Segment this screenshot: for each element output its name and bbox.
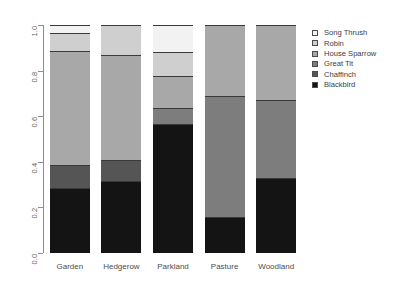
x-axis-label-hedgerow: Hedgerow	[103, 262, 139, 271]
bar-segment-great-tit	[153, 108, 193, 124]
y-axis-tick	[38, 116, 43, 117]
bar-segment-chaffinch	[50, 165, 90, 188]
y-axis-tick	[38, 162, 43, 163]
bar-segment-robin	[101, 25, 141, 55]
bar-segment-blackbird	[101, 181, 141, 253]
legend-label: Robin	[324, 40, 344, 48]
legend-item-robin[interactable]: Robin	[312, 38, 376, 48]
bar-segment-robin	[153, 52, 193, 76]
y-axis-tick	[38, 207, 43, 208]
y-axis-tick-label: 0.0	[30, 254, 39, 265]
legend-label: Song Thrush	[324, 29, 367, 37]
bar-segment-house-sparrow	[205, 25, 245, 96]
bar-woodland	[256, 25, 296, 253]
y-axis-tick-label: 0.6	[30, 117, 39, 128]
bar-hedgerow	[101, 25, 141, 253]
legend-item-house-sparrow[interactable]: House Sparrow	[312, 49, 376, 59]
y-axis-tick	[38, 253, 43, 254]
bar-parkland	[153, 25, 193, 253]
bar-segment-song-thrush	[50, 25, 90, 33]
bar-segment-blackbird	[153, 124, 193, 253]
plot-area	[44, 25, 302, 253]
y-axis-tick-label: 0.8	[30, 71, 39, 82]
legend-swatch-icon	[312, 30, 318, 36]
bar-segment-blackbird	[256, 178, 296, 253]
bar-garden	[50, 25, 90, 253]
x-axis-label-garden: Garden	[56, 262, 83, 271]
y-axis-tick	[38, 71, 43, 72]
legend-swatch-icon	[312, 40, 318, 46]
bar-segment-house-sparrow	[256, 25, 296, 100]
legend-label: House Sparrow	[324, 50, 376, 58]
bar-segment-robin	[50, 33, 90, 51]
y-axis-tick-label: 1.0	[30, 26, 39, 37]
stacked-bar-chart: 0.00.20.40.60.81.0 GardenHedgerowParklan…	[0, 0, 402, 289]
bar-segment-house-sparrow	[101, 55, 141, 160]
legend-item-great-tit[interactable]: Great Tit	[312, 59, 376, 69]
x-axis-label-pasture: Pasture	[211, 262, 239, 271]
legend-swatch-icon	[312, 51, 318, 57]
bar-segment-blackbird	[50, 188, 90, 253]
legend-item-blackbird[interactable]: Blackbird	[312, 79, 376, 89]
legend-item-chaffinch[interactable]: Chaffinch	[312, 69, 376, 79]
bar-segment-chaffinch	[101, 160, 141, 182]
legend-item-song-thrush[interactable]: Song Thrush	[312, 28, 376, 38]
bar-segment-great-tit	[256, 100, 296, 178]
bar-segment-house-sparrow	[50, 51, 90, 165]
bar-pasture	[205, 25, 245, 253]
bar-segment-great-tit	[205, 96, 245, 217]
y-axis-tick	[38, 25, 43, 26]
x-axis-label-woodland: Woodland	[258, 262, 294, 271]
legend-label: Blackbird	[324, 81, 355, 89]
legend-swatch-icon	[312, 71, 318, 77]
legend-swatch-icon	[312, 61, 318, 67]
legend-swatch-icon	[312, 82, 318, 88]
y-axis-tick-label: 0.4	[30, 162, 39, 173]
legend-label: Chaffinch	[324, 71, 356, 79]
chart-legend: Song ThrushRobinHouse SparrowGreat TitCh…	[312, 28, 376, 90]
bar-segment-blackbird	[205, 217, 245, 253]
legend-label: Great Tit	[324, 60, 353, 68]
y-axis-tick-label: 0.2	[30, 208, 39, 219]
bar-segment-song-thrush	[153, 25, 193, 52]
bar-segment-house-sparrow	[153, 76, 193, 108]
x-axis-label-parkland: Parkland	[157, 262, 189, 271]
